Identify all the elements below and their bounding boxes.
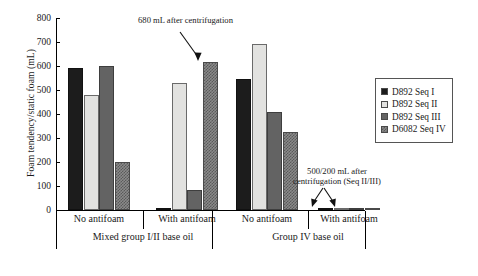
y-tick-label: 400 (15, 109, 56, 119)
bar-2-d892-seq-iii[interactable] (187, 190, 202, 210)
legend-swatch-icon (381, 113, 388, 120)
y-tick-mark (56, 18, 60, 19)
bar-3-d892-seq-ii[interactable] (252, 44, 267, 210)
y-tick-label: 0 (15, 205, 56, 215)
y-tick-mark (56, 186, 60, 187)
y-tick-mark (56, 138, 60, 139)
y-tick-label: 300 (15, 133, 56, 143)
legend-label: D892 Seq I (392, 87, 434, 97)
x-group-label-2: Group IV base oil (238, 231, 378, 242)
legend-swatch-icon (381, 101, 388, 108)
y-tick-mark (56, 114, 60, 115)
bar-2-d6082-seq-iv[interactable] (203, 62, 218, 210)
y-tick-label: 500 (15, 85, 56, 95)
bar-3-d892-seq-iii[interactable] (267, 112, 282, 210)
bar-1-d892-seq-iii[interactable] (99, 66, 114, 210)
annotation-top-arrow-icon (178, 30, 208, 64)
legend-label: D892 Seq II (392, 99, 437, 109)
legend-item-4[interactable]: D6082 Seq IV (381, 124, 446, 134)
legend-item-2[interactable]: D892 Seq II (381, 99, 446, 109)
y-tick-label: 600 (15, 61, 56, 71)
legend-swatch-icon (381, 88, 388, 95)
y-tick-label: 100 (15, 181, 56, 191)
legend-item-1[interactable]: D892 Seq I (381, 87, 446, 97)
y-tick-mark (56, 162, 60, 163)
axis-separator-minor-1 (143, 211, 144, 229)
y-tick-mark (56, 42, 60, 43)
y-tick-label: 700 (15, 37, 56, 47)
bar-4-d892-seq-iii[interactable] (349, 208, 364, 210)
x-category-label-4: With antifoam (304, 213, 394, 224)
bar-1-d6082-seq-iv[interactable] (115, 162, 130, 210)
x-category-label-1: No antifoam (54, 213, 144, 224)
y-tick-label: 200 (15, 157, 56, 167)
y-tick-label: 800 (15, 13, 56, 23)
bar-2-d892-seq-i[interactable] (156, 208, 171, 210)
legend: D892 Seq ID892 Seq IID892 Seq IIID6082 S… (375, 78, 453, 143)
annotation-bottom-arrows-icon (309, 186, 343, 210)
x-axis-line (56, 210, 365, 211)
axis-separator-left (56, 211, 57, 249)
legend-swatch-icon (381, 126, 388, 133)
x-category-label-3: No antifoam (222, 213, 312, 224)
bar-1-d892-seq-ii[interactable] (84, 95, 99, 210)
legend-label: D892 Seq III (392, 112, 441, 122)
bar-3-d892-seq-i[interactable] (236, 79, 251, 210)
bar-4-d6082-seq-iv[interactable] (365, 208, 380, 210)
chart-figure: Foam tendency/static foam (mL) 010020030… (0, 0, 478, 276)
bar-2-d892-seq-ii[interactable] (172, 83, 187, 210)
y-tick-mark (56, 90, 60, 91)
annotation-top-text: 680 mL after centrifugation (113, 15, 258, 26)
legend-label: D6082 Seq IV (392, 124, 446, 134)
bar-1-d892-seq-i[interactable] (68, 68, 83, 210)
axis-separator-middle (212, 211, 213, 249)
x-group-label-1: Mixed group I/II base oil (73, 231, 213, 242)
axis-separator-minor-2 (308, 211, 309, 229)
x-category-label-2: With antifoam (142, 213, 232, 224)
y-tick-mark (56, 66, 60, 67)
legend-item-3[interactable]: D892 Seq III (381, 112, 446, 122)
axis-separator-right (365, 211, 366, 249)
